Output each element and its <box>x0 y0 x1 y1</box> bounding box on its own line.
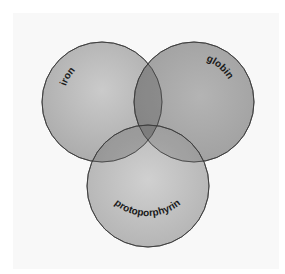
venn-diagram: iron globin protoporphyrin <box>0 0 285 274</box>
